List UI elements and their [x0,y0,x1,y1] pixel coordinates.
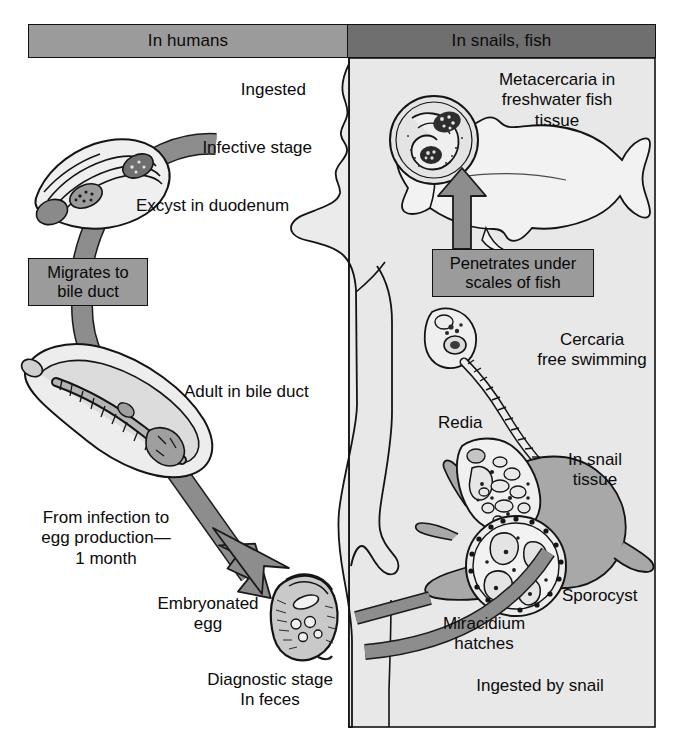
label-ingested-by-snail: Ingested by snail [450,676,630,696]
label-in-snail-tissue: In snail tissue [540,450,650,491]
label-redia: Redia [438,413,518,433]
label-from-infection-to-egg-production: From infection to egg production— 1 mont… [18,508,194,569]
label-excyst-in-duodenum: Excyst in duodenum [136,196,336,216]
label-miracidium-hatches: Miracidium hatches [414,614,554,655]
embryonated-egg-illustration [271,575,338,661]
label-ingested: Ingested [186,80,306,100]
callout-migrates-to-bile-duct: Migrates to bile duct [28,258,148,306]
panel-header-humans: In humans [28,24,348,58]
label-metacercaria-in-freshwater-fish-tissue: Metacercaria in freshwater fish tissue [470,70,644,131]
panel-header-snails-fish: In snails, fish [348,24,656,58]
label-cercaria-free-swimming: Cercaria free swimming [522,330,662,371]
callout-penetrates-under-scales: Penetrates under scales of fish [432,249,594,297]
label-adult-in-bile-duct: Adult in bile duct [184,382,360,402]
label-diagnostic-stage-in-feces: Diagnostic stage In feces [190,670,350,711]
lifecycle-diagram: In humans In snails, fish Migrates to bi… [0,0,680,746]
adult-fluke-illustration [19,344,213,477]
label-infective-stage: Infective stage [150,138,312,158]
label-embryonated-egg: Embryonated egg [138,594,278,635]
label-sporocyst: Sporocyst [562,586,672,606]
